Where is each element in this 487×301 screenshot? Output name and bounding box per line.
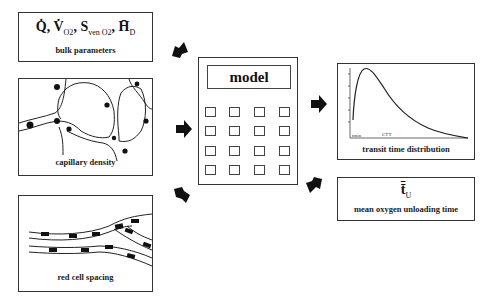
bulk-parameters-box: Q̇, V̇O2, Sven O2, H̄D bulk parameters <box>18 12 153 62</box>
arrow-capillary-to-model-icon <box>174 119 194 139</box>
mean-unloading-time-symbol: t̄U <box>338 182 474 200</box>
arrow-model-to-distribution-icon <box>309 94 329 114</box>
capillary-density-box: capillary density <box>18 78 153 176</box>
model-display: model <box>207 65 291 89</box>
model-key <box>254 165 265 175</box>
model-key <box>205 146 216 156</box>
model-key <box>279 146 290 156</box>
mean-unloading-time-box: t̄U mean oxygen unloading time <box>337 177 475 221</box>
transit-time-distribution-plot: tmin CTT <box>338 64 474 144</box>
bulk-parameters-label: bulk parameters <box>19 45 152 55</box>
arrow-bulk-to-model-icon <box>170 40 190 60</box>
model-key <box>229 146 240 156</box>
capillary-density-label: capillary density <box>19 157 152 167</box>
model-key <box>254 146 265 156</box>
model-key <box>254 107 265 117</box>
mean-unloading-time-label: mean oxygen unloading time <box>338 204 474 214</box>
model-key <box>205 107 216 117</box>
transit-time-distribution-box: tmin CTT transit time distribution <box>337 63 475 160</box>
model-key <box>254 126 265 136</box>
tmin-marker: tmin <box>352 133 362 138</box>
model-key <box>229 107 240 117</box>
model-key <box>229 126 240 136</box>
model-key <box>279 126 290 136</box>
red-cell-spacing-label: red cell spacing <box>19 272 152 282</box>
model-key <box>229 165 240 175</box>
model-calculator: model <box>198 57 298 185</box>
model-key <box>279 107 290 117</box>
transit-time-distribution-label: transit time distribution <box>338 144 474 154</box>
model-key <box>205 165 216 175</box>
ctt-marker: CTT <box>382 132 391 137</box>
arrow-red-cell-to-model-icon <box>172 185 192 205</box>
model-key <box>279 165 290 175</box>
arrow-mean-time-to-model-icon <box>304 175 324 195</box>
red-cell-spacing-box: red cell spacing <box>18 195 153 292</box>
bulk-parameters-formula: Q̇, V̇O2, Sven O2, H̄D <box>19 19 152 37</box>
model-key <box>205 126 216 136</box>
